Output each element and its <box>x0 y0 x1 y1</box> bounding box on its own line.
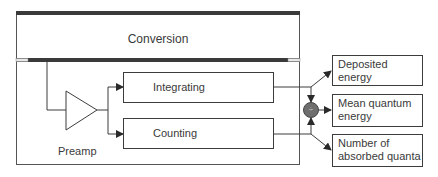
conversion-separator-bar <box>16 58 300 62</box>
input-line <box>47 62 66 110</box>
arrow-to-absorbed-quanta <box>311 134 331 150</box>
output-quanta-line1: Number of <box>338 137 389 150</box>
top-bar <box>16 11 300 15</box>
output-mean-line2: energy <box>338 110 372 123</box>
counting-label: Counting <box>153 127 197 140</box>
divider-symbol: ÷ <box>305 103 317 116</box>
conversion-label: Conversion <box>16 33 300 46</box>
output-mean-line1: Mean quantum <box>338 97 411 110</box>
output-deposited-line1: Deposited <box>338 58 388 71</box>
integrating-label: Integrating <box>153 81 205 94</box>
output-quanta-line2: absorbed quanta <box>338 150 421 163</box>
output-deposited-line2: energy <box>338 71 372 84</box>
counting-box <box>124 119 274 149</box>
preamp-label: Preamp <box>58 145 97 158</box>
arrow-to-deposited-energy <box>311 71 331 87</box>
preamp-triangle-icon <box>66 91 97 130</box>
